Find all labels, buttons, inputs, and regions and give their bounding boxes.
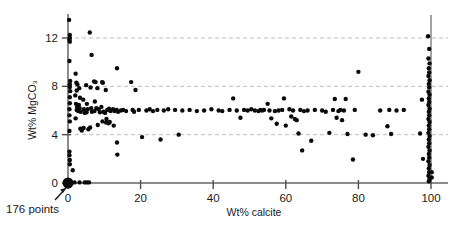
data-point bbox=[291, 108, 295, 112]
data-point bbox=[93, 99, 97, 103]
data-point bbox=[427, 134, 431, 138]
data-point bbox=[262, 108, 266, 112]
data-point bbox=[430, 175, 434, 179]
data-point bbox=[180, 108, 184, 112]
data-point bbox=[92, 109, 96, 113]
data-point bbox=[280, 108, 284, 112]
data-point bbox=[345, 132, 349, 136]
data-point bbox=[166, 107, 170, 111]
data-point bbox=[85, 102, 89, 106]
x-axis-title: Wt% calcite bbox=[227, 206, 282, 218]
data-point bbox=[67, 18, 71, 22]
data-point bbox=[427, 127, 431, 131]
data-point bbox=[427, 141, 431, 145]
chart-canvas: 04812 020406080100 Wt% calcite Wt% MgCO₃… bbox=[0, 0, 461, 227]
data-point bbox=[296, 131, 300, 135]
data-point bbox=[88, 30, 92, 34]
x-tick-label-20: 20 bbox=[134, 192, 147, 204]
y-tick-label-4: 4 bbox=[52, 129, 59, 141]
data-point bbox=[427, 70, 431, 74]
data-point bbox=[267, 108, 271, 112]
data-point bbox=[115, 152, 119, 156]
data-point bbox=[88, 85, 92, 89]
data-point bbox=[158, 137, 162, 141]
data-point bbox=[124, 109, 128, 113]
data-point bbox=[96, 123, 100, 127]
data-point bbox=[67, 113, 71, 117]
data-point bbox=[137, 108, 141, 112]
data-point bbox=[155, 108, 159, 112]
data-point bbox=[371, 133, 375, 137]
data-point bbox=[427, 155, 431, 159]
data-point bbox=[140, 135, 144, 139]
data-point bbox=[309, 139, 313, 143]
data-point bbox=[426, 56, 430, 60]
data-point bbox=[77, 180, 81, 184]
data-point bbox=[101, 81, 105, 85]
data-point bbox=[427, 179, 431, 183]
y-tick-label-8: 8 bbox=[52, 80, 58, 92]
data-point bbox=[68, 85, 72, 89]
data-point bbox=[300, 148, 304, 152]
data-point bbox=[282, 96, 286, 100]
data-point bbox=[385, 124, 389, 128]
data-point bbox=[68, 89, 72, 93]
data-point bbox=[426, 74, 430, 78]
origin-marker bbox=[63, 178, 74, 189]
data-point bbox=[343, 97, 347, 101]
x-tick-label-0: 0 bbox=[65, 192, 71, 204]
y-tick-label-0: 0 bbox=[52, 177, 58, 189]
data-point bbox=[73, 93, 77, 97]
points-count-annotation: 176 points bbox=[6, 203, 59, 215]
data-point bbox=[71, 168, 75, 172]
data-point bbox=[426, 34, 430, 38]
data-point bbox=[99, 105, 103, 109]
data-point bbox=[402, 108, 406, 112]
data-point bbox=[427, 61, 431, 65]
data-point bbox=[84, 83, 88, 87]
data-point bbox=[427, 148, 431, 152]
data-point bbox=[238, 116, 242, 120]
y-axis-title: Wt% MgCO₃ bbox=[26, 80, 38, 140]
data-point bbox=[324, 110, 328, 114]
data-point bbox=[427, 78, 431, 82]
data-point bbox=[351, 157, 355, 161]
x-tick-label-60: 60 bbox=[279, 192, 292, 204]
data-point bbox=[334, 116, 338, 120]
data-point bbox=[68, 162, 72, 166]
data-point bbox=[95, 86, 99, 90]
data-point bbox=[81, 126, 85, 130]
data-point bbox=[363, 132, 367, 136]
x-tick-label-40: 40 bbox=[207, 192, 220, 204]
data-point bbox=[132, 110, 136, 114]
data-point bbox=[427, 113, 431, 117]
scatter-plot-figure: 04812 020406080100 Wt% calcite Wt% MgCO₃… bbox=[0, 0, 461, 227]
data-point bbox=[129, 80, 133, 84]
data-point bbox=[220, 109, 224, 113]
data-point bbox=[418, 131, 422, 135]
data-point bbox=[89, 53, 93, 57]
data-point bbox=[269, 116, 273, 120]
data-point bbox=[77, 86, 81, 90]
data-point bbox=[289, 114, 293, 118]
data-point bbox=[84, 110, 88, 114]
data-point bbox=[378, 108, 382, 112]
data-point bbox=[427, 120, 431, 124]
data-point bbox=[235, 108, 239, 112]
data-point bbox=[104, 88, 108, 92]
data-point bbox=[342, 108, 346, 112]
data-point bbox=[284, 123, 288, 127]
data-point bbox=[87, 180, 91, 184]
data-point bbox=[305, 108, 309, 112]
data-point bbox=[202, 108, 206, 112]
data-point bbox=[421, 157, 425, 161]
x-tick-label-80: 80 bbox=[352, 192, 365, 204]
data-point bbox=[115, 66, 119, 70]
data-point bbox=[68, 158, 72, 162]
data-point bbox=[73, 71, 77, 75]
data-point bbox=[394, 108, 398, 112]
data-point bbox=[333, 97, 337, 101]
data-point bbox=[93, 80, 97, 84]
data-point bbox=[427, 47, 431, 51]
data-point bbox=[227, 108, 231, 112]
